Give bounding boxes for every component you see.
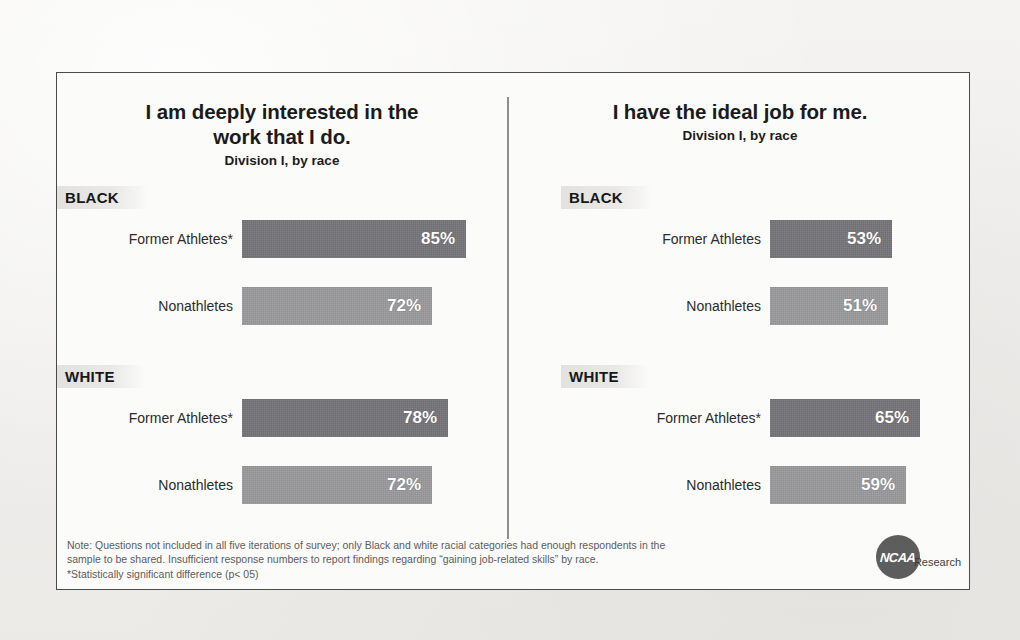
right-chart-subtitle: Division I, by race <box>509 128 971 143</box>
footnote-line-1: Note: Questions not included in all five… <box>67 538 857 553</box>
right-chart-title: I have the ideal job for me. <box>539 99 941 124</box>
right-chart-title-line1: I have the ideal job for me. <box>539 99 941 124</box>
left-chart-title-line2: work that I do. <box>97 124 467 149</box>
left-chart-title: I am deeply interested in the work that … <box>97 99 467 149</box>
right-white-row-nonathletes: Nonathletes 59% <box>509 464 971 506</box>
bar-former-athletes: 78% <box>242 399 448 437</box>
bar-former-athletes: 65% <box>770 399 920 437</box>
right-group-white: WHITE Former Athletes* 65% Nonathletes 5… <box>509 365 971 506</box>
bar-former-athletes: 53% <box>770 220 892 258</box>
ncaa-research-logo: NCAA Research <box>876 535 961 579</box>
left-white-row-former-athletes: Former Athletes* 78% <box>57 397 507 439</box>
footnote-line-2: sample to be shared. Insufficient respon… <box>67 552 857 567</box>
right-group-black: BLACK Former Athletes 53% Nonathletes 51… <box>509 186 971 327</box>
left-group-white-label: WHITE <box>57 365 145 388</box>
bar-value-label: 59% <box>861 475 895 495</box>
bar-value-label: 53% <box>847 229 881 249</box>
row-label: Nonathletes <box>57 477 242 493</box>
left-white-row-nonathletes: Nonathletes 72% <box>57 464 507 506</box>
bar-value-label: 51% <box>843 296 877 316</box>
bar-value-label: 72% <box>387 296 421 316</box>
footnote: Note: Questions not included in all five… <box>67 538 857 582</box>
bar-former-athletes: 85% <box>242 220 466 258</box>
bar-value-label: 65% <box>875 408 909 428</box>
bar-nonathletes: 72% <box>242 466 432 504</box>
footnote-line-3: *Statistically significant difference (p… <box>67 567 857 582</box>
left-group-black: BLACK Former Athletes* 85% Nonathletes 7… <box>57 186 507 327</box>
right-black-row-former-athletes: Former Athletes 53% <box>509 218 971 260</box>
chart-panel-right: I have the ideal job for me. Division I,… <box>509 73 971 589</box>
left-chart-title-line1: I am deeply interested in the <box>97 99 467 124</box>
ncaa-logo-icon: NCAA <box>876 535 920 579</box>
bar-value-label: 78% <box>403 408 437 428</box>
ncaa-logo-word: Research <box>914 546 961 568</box>
bar-nonathletes: 72% <box>242 287 432 325</box>
ncaa-logo-mark: NCAA <box>880 550 917 565</box>
slide-frame: I am deeply interested in the work that … <box>56 72 970 590</box>
right-group-black-label: BLACK <box>561 186 653 209</box>
left-chart-subtitle: Division I, by race <box>57 153 507 168</box>
left-black-row-former-athletes: Former Athletes* 85% <box>57 218 507 260</box>
left-group-black-label: BLACK <box>57 186 149 209</box>
row-label: Nonathletes <box>57 298 242 314</box>
right-black-row-nonathletes: Nonathletes 51% <box>509 285 971 327</box>
row-label: Former Athletes* <box>57 231 242 247</box>
row-label: Former Athletes* <box>57 410 242 426</box>
row-label: Nonathletes <box>509 477 770 493</box>
chart-panel-left: I am deeply interested in the work that … <box>57 73 507 589</box>
left-black-row-nonathletes: Nonathletes 72% <box>57 285 507 327</box>
bar-value-label: 72% <box>387 475 421 495</box>
bar-value-label: 85% <box>421 229 455 249</box>
right-group-white-label: WHITE <box>561 365 649 388</box>
right-white-row-former-athletes: Former Athletes* 65% <box>509 397 971 439</box>
row-label: Former Athletes <box>509 231 770 247</box>
left-group-white: WHITE Former Athletes* 78% Nonathletes 7… <box>57 365 507 506</box>
bar-nonathletes: 59% <box>770 466 906 504</box>
row-label: Nonathletes <box>509 298 770 314</box>
row-label: Former Athletes* <box>509 410 770 426</box>
bar-nonathletes: 51% <box>770 287 888 325</box>
